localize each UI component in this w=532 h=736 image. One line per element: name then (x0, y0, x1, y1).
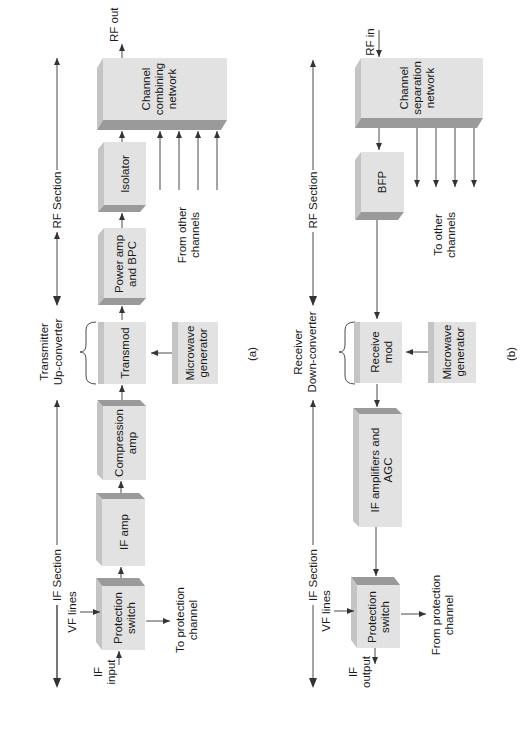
panel-b: RF Section IF Section Receiver Down-conv… (292, 28, 517, 688)
svg-text:network: network (166, 69, 178, 110)
diagram-canvas: RF Section IF Section Transmitter Up-con… (0, 0, 532, 736)
svg-text:generator: generator (454, 327, 466, 376)
svg-text:switch: switch (125, 602, 137, 634)
svg-text:mod: mod (382, 341, 394, 363)
if-output-l1: IF (347, 667, 359, 677)
from-protection-channel-l2: channel (443, 595, 455, 635)
svg-text:Isolator: Isolator (119, 155, 131, 193)
converter-label-a-line2: Up-converter (52, 319, 64, 386)
svg-text:Transmod: Transmod (119, 327, 131, 378)
svg-text:BFP: BFP (376, 170, 388, 193)
to-other-channels-arrows (417, 128, 474, 187)
svg-text:Power amp: Power amp (113, 235, 125, 293)
block-isolator: Isolator (98, 142, 146, 212)
converter-label-b-line2: Down-converter (306, 311, 318, 392)
svg-text:Channel: Channel (140, 68, 152, 111)
block-transmod: Transmod (98, 322, 146, 384)
svg-text:AGC: AGC (382, 458, 394, 483)
block-bfp: BFP (355, 152, 404, 220)
svg-text:Protection: Protection (112, 592, 124, 644)
from-protection-channel-l1: From protection (430, 575, 442, 656)
to-other-channels-l1: To other (432, 214, 444, 256)
svg-text:Microwave: Microwave (441, 325, 453, 380)
svg-text:IF amplifiers and: IF amplifiers and (369, 427, 381, 512)
rf-out-label: RF out (108, 7, 120, 42)
to-protection-channel-l2: channel (187, 600, 199, 640)
converter-label-a-line1: Transmitter (38, 323, 50, 381)
if-section-label-a: IF Section (51, 549, 63, 601)
block-power-amp-bpc: Power amp and BPC (98, 228, 146, 305)
svg-text:Compression: Compression (113, 409, 125, 477)
to-protection-channel-l1: To protection (174, 587, 186, 653)
block-if-amplifiers-agc: IF amplifiers and AGC (353, 408, 402, 527)
svg-text:network: network (424, 68, 436, 109)
if-output-l2: output (360, 655, 372, 688)
panel-a: RF Section IF Section Transmitter Up-con… (38, 7, 258, 688)
rf-section-label-a: RF Section (51, 172, 63, 229)
svg-text:Receive: Receive (369, 331, 381, 373)
block-if-amp: IF amp (96, 493, 145, 566)
panel-b-caption: (b) (505, 347, 517, 361)
svg-text:Channel: Channel (398, 67, 410, 110)
to-other-channels-l2: channels (445, 212, 457, 258)
if-input-l2: input (105, 659, 117, 685)
from-other-channels-l1: From other (176, 207, 188, 263)
block-receive-mod: Receive mod (354, 322, 402, 383)
brace-b (339, 322, 355, 384)
block-protection-switch-a: Protection switch (96, 578, 145, 650)
svg-text:Protection: Protection (366, 591, 378, 643)
svg-text:separation: separation (411, 61, 423, 115)
svg-text:Microwave: Microwave (184, 326, 196, 381)
from-other-channels-l2: channels (189, 212, 201, 258)
svg-text:combining: combining (153, 63, 165, 115)
block-microwave-generator-b: Microwave generator (428, 322, 476, 383)
if-input-l1: IF (92, 667, 104, 677)
brace-a (80, 322, 96, 384)
rf-in-label: RF in (364, 28, 376, 55)
block-microwave-generator-a: Microwave generator (172, 322, 218, 384)
vf-lines-label-a: VF lines (66, 591, 78, 633)
from-other-channels-arrows (160, 131, 217, 190)
svg-text:amp: amp (126, 432, 138, 454)
if-section-label-b: IF Section (307, 549, 319, 601)
svg-text:and BPC: and BPC (126, 241, 138, 287)
svg-text:generator: generator (197, 328, 209, 377)
block-channel-combining-network: Channel combining network (97, 58, 227, 130)
block-protection-switch-b: Protection switch (351, 577, 400, 648)
block-compression-amp: Compression amp (97, 400, 146, 480)
block-channel-separation-network: Channel separation network (355, 58, 483, 128)
vf-lines-label-b: VF lines (320, 590, 332, 632)
rf-section-label-b: RF Section (307, 172, 319, 229)
panel-a-caption: (a) (246, 347, 258, 361)
svg-text:IF amp: IF amp (118, 514, 130, 550)
converter-label-b-line1: Receiver (292, 329, 304, 375)
svg-text:switch: switch (379, 601, 391, 633)
